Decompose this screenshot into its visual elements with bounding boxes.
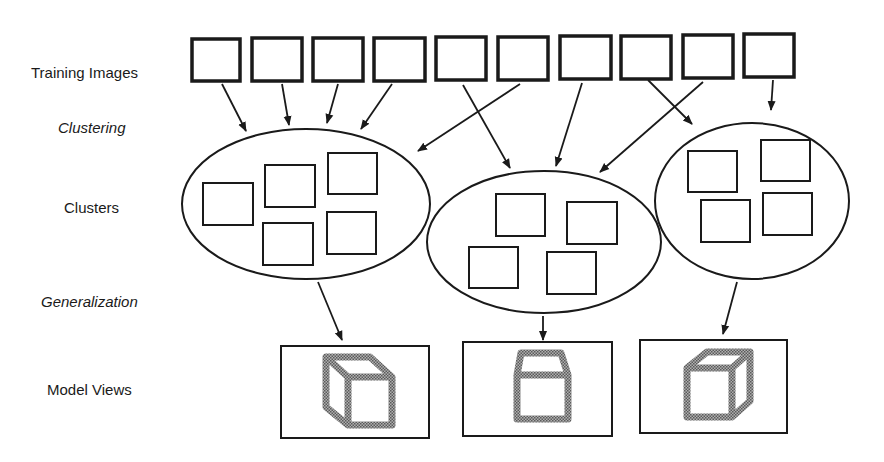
training-images-row	[192, 34, 794, 81]
diagram-canvas	[0, 0, 884, 462]
model-view-3	[640, 340, 787, 433]
cluster-2-member	[469, 247, 518, 288]
cube-icon-left	[326, 357, 392, 425]
cluster-2-member	[547, 252, 596, 294]
cluster-2	[427, 171, 661, 313]
training-image-9	[683, 35, 733, 78]
cluster-3-member	[701, 200, 750, 242]
cluster-1-member	[328, 153, 377, 194]
training-image-3	[313, 38, 363, 81]
cluster-2-member	[496, 194, 545, 236]
cluster-2-member	[567, 202, 617, 244]
cluster-1	[182, 129, 430, 279]
arrow-img5-cluster2	[463, 85, 510, 168]
training-image-10	[744, 34, 794, 77]
cluster-3-member	[763, 193, 812, 235]
arrow-img10-cluster3	[771, 80, 773, 110]
arrow-img2-cluster1	[282, 84, 289, 125]
training-image-7	[560, 36, 611, 79]
training-image-4	[374, 38, 425, 81]
training-image-1	[192, 39, 240, 81]
arrow-img4-cluster1	[361, 84, 392, 129]
training-image-6	[498, 37, 548, 80]
arrow-img7-cluster2	[556, 83, 582, 166]
cluster-3-member	[688, 151, 737, 192]
arrow-img1-cluster1	[222, 84, 246, 131]
generalization-arrows	[318, 282, 737, 340]
cluster-3-boundary	[655, 123, 849, 279]
cube-icon-right	[687, 352, 750, 417]
training-image-2	[252, 38, 302, 81]
cube-icon-front	[517, 353, 568, 419]
cluster-1-boundary	[182, 129, 430, 279]
arrow-img8-cluster3	[648, 80, 692, 124]
cluster-3	[655, 123, 849, 279]
cluster-3-member	[761, 140, 810, 181]
training-image-8	[621, 36, 671, 79]
arrow-cluster3-view3	[723, 282, 737, 334]
cluster-1-member	[327, 212, 376, 254]
model-view-1	[281, 346, 429, 438]
training-image-5	[436, 37, 486, 80]
arrow-img3-cluster1	[327, 84, 338, 123]
model-view-2	[463, 342, 612, 436]
cluster-1-member	[265, 165, 315, 207]
arrow-cluster1-view1	[318, 282, 342, 340]
cluster-1-member	[203, 183, 253, 225]
clustering-arrows	[222, 80, 773, 172]
cluster-2-boundary	[427, 171, 661, 313]
cluster-1-member	[263, 223, 313, 265]
